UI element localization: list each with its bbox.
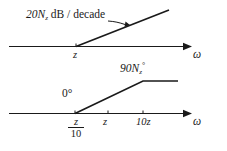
phase-omega-axis-label: ω (193, 116, 201, 128)
slope-leader-arrow (108, 21, 130, 27)
phase-tick-10z-label: 10z (136, 117, 151, 128)
phase-tick-z-label: z (103, 117, 107, 128)
phase-final-degree-symbol: ° (142, 61, 145, 70)
slope-units: dB / decade (48, 8, 105, 20)
slope-coefficient: 20N (26, 8, 45, 20)
phase-axis-arrowhead (183, 110, 192, 118)
magnitude-axis-group (9, 43, 192, 51)
magnitude-slope-annotation: 20Nz dB / decade (26, 9, 105, 22)
fraction-numerator: z (66, 116, 86, 127)
magnitude-omega-axis-label: ω (193, 49, 201, 61)
phase-tick-z-over-10-label: z 10 (66, 116, 86, 140)
plot-vector-graphics (0, 0, 227, 151)
phase-asymptote-line (75, 81, 178, 114)
phase-asymptote-group (75, 81, 178, 114)
fraction-denominator: 10 (66, 128, 86, 140)
phase-axis-group (9, 110, 192, 118)
bode-plot-figure: 20Nz dB / decade z ω 90Nz° 0° z 10 z 10z… (0, 0, 227, 151)
phase-start-value-label: 0° (62, 88, 72, 100)
magnitude-tick-z-label: z (73, 50, 77, 61)
magnitude-axis-arrowhead (183, 43, 192, 51)
phase-final-coefficient: 90N (120, 62, 139, 74)
phase-final-value-label: 90Nz° (120, 62, 145, 76)
